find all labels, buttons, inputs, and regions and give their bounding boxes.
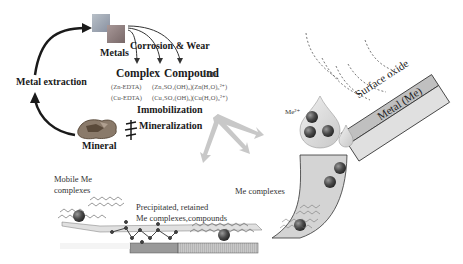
row-0-complex: (Zn-EDTA) — [111, 83, 142, 90]
label-mineral: Mineral — [82, 140, 116, 151]
row-0-compound: (Zn₄SO₄(OH)₆) — [152, 83, 192, 90]
gray-direction-arrows — [200, 114, 264, 163]
row-1-complex: (Cu-EDTA) — [111, 94, 142, 101]
header-ion: Ion — [203, 68, 216, 79]
mobile-complex-ball — [73, 210, 85, 222]
label-me-complexes: Me complexes — [235, 186, 285, 196]
header-complex: Complex — [116, 67, 160, 79]
mineral-rock-icon — [78, 120, 117, 139]
label-me-ion: Me²⁺ — [285, 108, 300, 116]
mineral-arrow-up — [35, 100, 75, 135]
bound-ligands — [111, 221, 178, 244]
diagram-canvas — [0, 0, 463, 264]
extraction-arrow-up — [35, 28, 85, 75]
label-precipitated-1: Precipitated, retained — [136, 202, 208, 212]
label-mineralization: Mineralization — [139, 120, 202, 131]
row-1-ion: (Cu(H₂O)₆²⁺) — [192, 94, 228, 102]
metals-icon — [92, 14, 125, 43]
label-corrosion-wear: Corrosion & Wear — [130, 40, 210, 51]
dissolution-waves — [306, 33, 392, 100]
soil-substrate — [60, 222, 262, 253]
label-precipitated-2: Me complexes,compounds — [136, 213, 227, 223]
ion-droplet — [300, 96, 353, 148]
retained-complex-ball — [218, 229, 230, 241]
mineralization-icon — [125, 120, 137, 140]
label-metal-extraction: Metal extraction — [16, 76, 87, 87]
label-metals: Metals — [100, 47, 129, 58]
label-mobile-1: Mobile Me — [54, 174, 92, 184]
label-immobilization: Immobilization — [137, 104, 203, 115]
row-0-ion: (Zn(H₂O)₆²⁺) — [192, 83, 227, 91]
row-1-compound: (Cu₄SO₄(OH)₆) — [152, 94, 193, 101]
transport-tube — [272, 155, 347, 238]
label-mobile-2: complexes — [54, 185, 90, 195]
